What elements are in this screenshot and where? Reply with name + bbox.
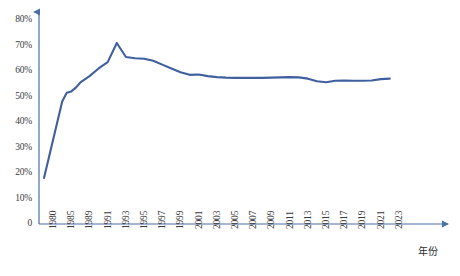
- y-tick-label: 0: [2, 218, 32, 228]
- y-tick-label: 80%: [2, 14, 32, 24]
- x-tick-label: 1997: [157, 211, 167, 229]
- x-tick-label: 2021: [376, 211, 386, 229]
- x-tick-label: 2007: [248, 211, 258, 229]
- x-tick-label: 1993: [121, 211, 131, 229]
- x-tick-label: 2023: [394, 211, 404, 229]
- x-tick-label: 1989: [84, 211, 94, 229]
- x-tick-label: 2019: [357, 211, 367, 229]
- y-tick-label: 30%: [2, 142, 32, 152]
- x-tick-label: 2001: [194, 211, 204, 229]
- x-tick-label: 1980: [48, 211, 58, 229]
- y-tick-label: 70%: [2, 40, 32, 50]
- y-tick-label: 60%: [2, 65, 32, 75]
- line-chart: 010%20%30%40%50%60%70%80% 19801985198919…: [0, 0, 460, 276]
- y-tick-label: 40%: [2, 116, 32, 126]
- x-tick-label: 2013: [303, 211, 313, 229]
- x-tick-label: 2003: [212, 211, 222, 229]
- x-tick-label: 1999: [175, 211, 185, 229]
- x-tick-label: 2009: [266, 211, 276, 229]
- chart-canvas: [0, 0, 460, 276]
- x-tick-label: 1995: [139, 211, 149, 229]
- x-tick-label: 2017: [339, 211, 349, 229]
- y-tick-label: 20%: [2, 167, 32, 177]
- x-tick-label: 2011: [285, 211, 295, 229]
- data-series-line: [44, 43, 390, 178]
- y-tick-label: 10%: [2, 193, 32, 203]
- x-tick-label: 1991: [103, 211, 113, 229]
- x-tick-label: 2015: [321, 211, 331, 229]
- x-axis-title: 年份: [418, 243, 438, 258]
- y-tick-label: 50%: [2, 91, 32, 101]
- x-tick-label: 2005: [230, 211, 240, 229]
- x-tick-label: 1985: [66, 211, 76, 229]
